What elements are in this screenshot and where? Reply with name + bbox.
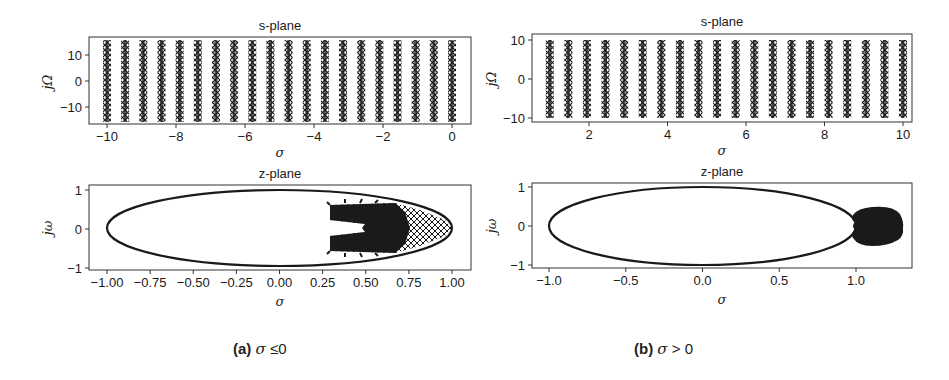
pole-column	[546, 40, 554, 118]
pole-column	[694, 40, 702, 118]
pole-column	[843, 40, 851, 118]
pole-column	[103, 40, 111, 122]
x-tick-label: −0.25	[220, 275, 253, 290]
panel-a-s-pole-columns	[103, 40, 456, 122]
x-tick-label: 0.5	[770, 273, 788, 288]
x-tick-label: 1.00	[439, 275, 464, 290]
panel-b-s-xlabel: σ	[718, 143, 728, 158]
panel-b-z-ylabel: jω	[484, 218, 499, 236]
pole-column	[862, 40, 870, 118]
pole-column	[157, 40, 165, 122]
panel-a-s-plane: s-plane −10−8−6−4−20 100−10 σ jΩ	[40, 18, 471, 160]
panel-b-s-pole-columns	[546, 40, 907, 118]
pole-column	[285, 40, 293, 122]
x-tick-label: 0.00	[267, 275, 292, 290]
panel-a-z-ylabel: jω	[40, 220, 55, 238]
x-tick-label: −10	[96, 129, 118, 144]
caption-b: (b) σ > 0	[634, 340, 693, 358]
x-tick-label: 0.75	[396, 275, 421, 290]
caption-a-label: (a)	[233, 340, 251, 357]
panel-a-z-title: z-plane	[259, 166, 302, 181]
pole-column	[321, 40, 329, 122]
panel-a-s-xlabel: σ	[276, 145, 286, 160]
pole-column	[639, 40, 647, 118]
caption-a: (a) σ ≤0	[233, 340, 287, 358]
panel-b-s-x-ticks: 246810	[585, 122, 910, 142]
x-tick-label: −8	[169, 129, 184, 144]
x-tick-label: −1.0	[536, 273, 562, 288]
pole-column	[357, 40, 365, 122]
caption-b-sigma: σ	[657, 340, 667, 358]
panel-b-z-x-ticks: −1.0−0.50.00.51.0	[536, 268, 865, 288]
y-tick-label: 0	[518, 219, 525, 234]
pole-column	[448, 40, 456, 122]
x-tick-label: 6	[742, 127, 749, 142]
panel-b-s-plane: s-plane 246810 100−10 σ jΩ	[484, 14, 912, 158]
pole-column	[676, 40, 684, 118]
pole-column	[375, 40, 383, 122]
pole-column	[657, 40, 665, 118]
y-tick-label: 0	[518, 72, 525, 87]
panel-a-z-y-ticks: 10−1	[67, 183, 89, 276]
pole-column	[825, 40, 833, 118]
y-tick-label: 1	[75, 183, 82, 198]
x-tick-label: 4	[664, 127, 671, 142]
pole-column	[899, 40, 907, 118]
y-tick-label: 0	[75, 222, 82, 237]
y-tick-label: −1	[510, 258, 525, 273]
panel-b-s-y-ticks: 100−10	[503, 33, 532, 126]
panel-b-z-xlabel: σ	[718, 292, 728, 307]
panel-a-s-y-ticks: 100−10	[60, 48, 89, 115]
y-tick-label: 10	[68, 48, 82, 63]
pole-column	[713, 40, 721, 118]
pole-column	[602, 40, 610, 118]
caption-b-condition: > 0	[668, 340, 693, 357]
pole-column	[121, 40, 129, 122]
x-tick-label: 2	[585, 127, 592, 142]
pole-column	[806, 40, 814, 118]
pole-column	[176, 40, 184, 122]
panel-b-s-title: s-plane	[701, 14, 744, 29]
x-tick-label: 10	[896, 127, 910, 142]
x-tick-label: −0.50	[177, 275, 210, 290]
panel-a-z-x-ticks: −1.00−0.75−0.50−0.250.000.250.500.751.00	[91, 270, 465, 290]
y-tick-label: −10	[60, 100, 82, 115]
y-tick-label: 1	[518, 180, 525, 195]
pole-column	[139, 40, 147, 122]
y-tick-label: 0	[75, 74, 82, 89]
x-tick-label: 8	[821, 127, 828, 142]
pole-column	[583, 40, 591, 118]
y-tick-label: 10	[511, 33, 525, 48]
x-tick-label: −0.75	[134, 275, 167, 290]
panel-a-s-ylabel: jΩ	[40, 74, 55, 92]
x-tick-label: −4	[307, 129, 322, 144]
x-tick-label: −6	[238, 129, 253, 144]
panel-b-z-title: z-plane	[701, 164, 744, 179]
pole-column	[880, 40, 888, 118]
pole-column	[430, 40, 438, 122]
pole-column	[266, 40, 274, 122]
caption-b-label: (b)	[634, 340, 653, 357]
panel-a-z-plane: z-plane −1.00−0.75−0.50−0.250.000.250.50…	[40, 166, 471, 309]
pole-column	[194, 40, 202, 122]
panel-b-z-pole-cluster	[852, 207, 903, 246]
pole-column	[769, 40, 777, 118]
panel-b-s-ylabel: jΩ	[484, 71, 499, 89]
figure-canvas: s-plane −10−8−6−4−20 100−10 σ jΩ z-plane…	[0, 0, 949, 380]
pole-column	[620, 40, 628, 118]
caption-a-sigma: σ	[256, 340, 266, 358]
x-tick-label: 0.50	[353, 275, 378, 290]
x-tick-label: 0	[448, 129, 455, 144]
panel-b-z-y-ticks: 10−1	[510, 180, 532, 273]
pole-column	[230, 40, 238, 122]
x-tick-label: −1.00	[91, 275, 124, 290]
panel-a-s-title: s-plane	[259, 18, 302, 33]
pole-column	[339, 40, 347, 122]
x-tick-label: −0.5	[613, 273, 639, 288]
pole-column	[564, 40, 572, 118]
pole-column	[248, 40, 256, 122]
pole-column	[212, 40, 220, 122]
pole-column	[732, 40, 740, 118]
x-tick-label: 1.0	[847, 273, 865, 288]
x-tick-label: 0.0	[693, 273, 711, 288]
